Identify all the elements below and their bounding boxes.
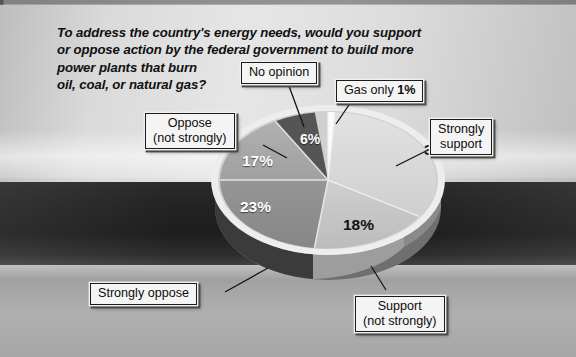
- callout-no-opinion[interactable]: No opinion: [241, 62, 317, 84]
- callout-no-opinion-label: No opinion: [249, 65, 309, 79]
- value-label-oppose-not-strongly: 17%: [242, 152, 273, 170]
- value-label-no-opinion: 6%: [300, 131, 320, 147]
- poster-photo: To address the country's energy needs, w…: [0, 0, 576, 357]
- callout-strongly-support-line-2: support: [438, 137, 484, 152]
- callout-oppose-not-strongly[interactable]: Oppose (not strongly): [145, 113, 235, 149]
- value-label-support-not-strongly: 18%: [343, 216, 374, 234]
- callout-gas-only-value: 1%: [397, 83, 415, 97]
- callout-strongly-oppose-label: Strongly oppose: [98, 286, 189, 300]
- callout-oppose-not-strongly-line-1: Oppose: [153, 116, 227, 131]
- callout-strongly-oppose[interactable]: Strongly oppose: [90, 283, 197, 305]
- pie-rim-highlight: [211, 105, 445, 255]
- callout-gas-only[interactable]: Gas only 1%: [336, 80, 423, 102]
- title-line-2: or oppose action by the federal governme…: [57, 41, 477, 58]
- callout-gas-only-label: Gas only: [344, 83, 394, 97]
- callout-support-not-strongly-line-2: (not strongly): [363, 314, 437, 329]
- callout-support-not-strongly-line-1: Support: [363, 299, 437, 314]
- value-label-strongly-oppose: 23%: [240, 198, 271, 216]
- title-line-1: To address the country's energy needs, w…: [57, 24, 477, 41]
- leader-strongly-oppose: [225, 268, 268, 292]
- callout-strongly-support[interactable]: Strongly support: [430, 119, 492, 155]
- callout-support-not-strongly[interactable]: Support (not strongly): [355, 296, 445, 332]
- callout-oppose-not-strongly-line-2: (not strongly): [153, 131, 227, 146]
- callout-strongly-support-line-1: Strongly: [438, 122, 484, 137]
